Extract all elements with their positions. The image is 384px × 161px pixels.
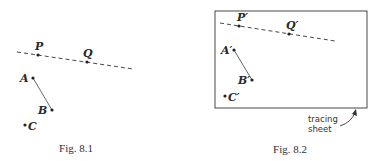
figure-8-2: P′ Q′ A′ B′ C′ tracing sheet Fig. 8.2 [215,11,367,155]
label-p-prime: P′ [236,11,248,24]
label-a-prime: A′ [220,44,233,57]
dashed-line-pq-prime [220,23,335,41]
point-a-prime [232,48,235,51]
point-a [31,76,34,79]
label-c-prime: C′ [228,91,240,104]
label-b-prime: B′ [237,74,250,87]
label-q: Q [83,47,93,60]
annotation-sheet: sheet [308,124,332,134]
annotation-tracing: tracing [308,114,338,124]
point-q-prime [287,32,290,35]
point-c-prime [223,94,226,97]
point-p-prime [237,24,240,27]
label-c: C [28,120,37,133]
diagram-canvas: P Q A B C Fig. 8.1 P′ Q′ A′ B′ C′ tracin… [0,0,384,161]
caption-fig-8-2: Fig. 8.2 [273,143,307,155]
label-p: P [34,40,44,53]
dashed-line-pq [17,52,133,69]
figure-8-1: P Q A B C Fig. 8.1 [17,40,133,154]
arrowhead-icon [352,109,357,116]
caption-fig-8-1: Fig. 8.1 [59,142,93,154]
label-a: A [19,72,29,85]
label-b: B [37,104,47,117]
label-q-prime: Q′ [286,19,299,32]
point-q [85,60,88,63]
point-b [50,108,53,111]
point-p [36,53,39,56]
point-c [23,123,26,126]
point-b-prime [250,78,253,81]
